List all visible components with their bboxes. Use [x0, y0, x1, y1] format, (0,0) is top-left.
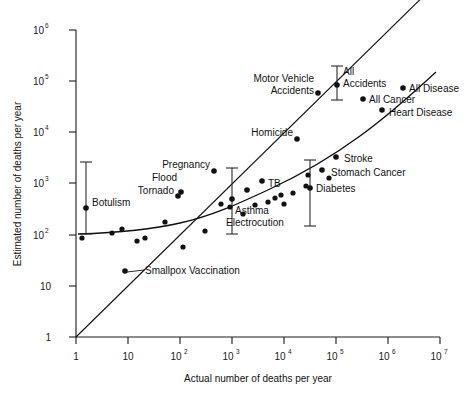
data-point: [79, 235, 84, 240]
data-point-diabetes: [307, 185, 313, 191]
label-stroke: Stroke: [344, 153, 373, 164]
data-point: [218, 201, 223, 206]
data-point: [202, 228, 207, 233]
x-tick-label: 1: [73, 351, 79, 362]
label-flood: Flood: [152, 172, 177, 183]
data-point: [290, 190, 295, 195]
data-point: [142, 235, 147, 240]
x-tick-label: 10: [274, 351, 286, 362]
data-point-heart-disease: [379, 107, 385, 113]
data-point-flood: [178, 189, 184, 195]
y-tick-exponent: 5: [45, 73, 49, 80]
x-tick-label: 10: [326, 351, 338, 362]
data-point: [134, 238, 139, 243]
data-point-stomach-cancer: [319, 167, 325, 173]
data-point-motor-vehicle-accidents: [315, 90, 321, 96]
data-point: [162, 219, 167, 224]
y-tick-label: 10: [33, 127, 45, 138]
y-tick-exponent: 2: [45, 227, 49, 234]
label-all-disease: All Disease: [409, 83, 459, 94]
label-heart-disease: Heart Disease: [389, 107, 453, 118]
x-axis-title: Actual number of deaths per year: [184, 373, 333, 384]
data-point: [119, 226, 124, 231]
data-point-all-cancer: [360, 96, 366, 102]
label-motor-vehicle-accidents-line2: Accidents: [271, 85, 314, 96]
y-tick-label: 10: [33, 25, 45, 36]
data-point-botulism: [83, 205, 89, 211]
data-point: [272, 195, 277, 200]
y-tick-exponent: 6: [45, 22, 49, 29]
data-point-pregnancy: [211, 168, 217, 174]
x-tick-label: 10: [378, 351, 390, 362]
y-tick-label: 10: [40, 281, 52, 292]
data-point: [265, 199, 270, 204]
x-tick-label: 10: [430, 351, 442, 362]
x-tick-label: 10: [170, 351, 182, 362]
data-point: [109, 230, 114, 235]
label-all-accidents-line1: All: [343, 66, 354, 77]
y-tick-label: 10: [33, 178, 45, 189]
x-tick-exponent: 3: [236, 348, 240, 355]
data-point: [281, 201, 286, 206]
x-axis-ticks: 1 10 10 2 10 3 10 4 10 5 10 6 10 7: [73, 337, 448, 362]
y-axis-title: Estimated number of deaths per year: [12, 101, 23, 266]
leader-line-smallpox: [127, 270, 144, 272]
label-all-cancer: All Cancer: [369, 94, 416, 105]
y-tick-label: 1: [45, 332, 51, 343]
data-point-stroke: [333, 154, 339, 160]
label-smallpox-vaccination: Smallpox Vaccination: [145, 265, 240, 276]
x-tick-label: 10: [222, 351, 234, 362]
data-point-tb: [259, 178, 265, 184]
data-point-smallpox-vaccination: [122, 268, 128, 274]
data-points-group: [79, 82, 405, 274]
point-labels-group: Botulism Smallpox Vaccination Tornado Fl…: [92, 66, 459, 276]
x-tick-label: 10: [122, 351, 134, 362]
error-bar-botulism: [80, 162, 92, 234]
x-tick-exponent: 7: [444, 348, 448, 355]
x-tick-exponent: 4: [288, 348, 292, 355]
data-point: [227, 204, 232, 209]
label-electrocution: Electrocution: [226, 217, 284, 228]
data-point-all-accidents: [334, 82, 340, 88]
data-point-homicide: [294, 136, 300, 142]
error-bar-diabetes: [304, 160, 316, 226]
y-tick-exponent: 4: [45, 124, 49, 131]
label-homicide: Homicide: [251, 127, 293, 138]
x-tick-exponent: 6: [392, 348, 396, 355]
label-botulism: Botulism: [92, 197, 130, 208]
label-pregnancy: Pregnancy: [162, 159, 210, 170]
y-tick-exponent: 3: [45, 175, 49, 182]
label-all-accidents-line2: Accidents: [343, 78, 386, 89]
label-diabetes: Diabetes: [316, 183, 355, 194]
label-tb: TB: [268, 178, 281, 189]
y-axis-ticks: 10 6 10 5 10 4 10 3 10 2 10 1: [33, 22, 76, 343]
data-point-asthma: [244, 187, 250, 193]
x-tick-exponent: 5: [340, 348, 344, 355]
label-asthma: Asthma: [235, 205, 269, 216]
x-tick-exponent: 2: [184, 348, 188, 355]
y-tick-label: 10: [33, 76, 45, 87]
label-tornado: Tornado: [138, 185, 175, 196]
data-point: [180, 244, 185, 249]
label-motor-vehicle-accidents-line1: Motor Vehicle: [253, 73, 314, 84]
data-point: [278, 192, 283, 197]
label-stomach-cancer: Stomach Cancer: [331, 167, 406, 178]
data-point-all-disease: [400, 85, 406, 91]
risk-perception-scatter-plot: 10 6 10 5 10 4 10 3 10 2 10 1 1 10: [0, 0, 476, 395]
chart-container: 10 6 10 5 10 4 10 3 10 2 10 1 1 10: [0, 0, 476, 395]
data-point: [305, 172, 310, 177]
y-tick-label: 10: [33, 230, 45, 241]
data-point-electrocution: [229, 196, 235, 202]
